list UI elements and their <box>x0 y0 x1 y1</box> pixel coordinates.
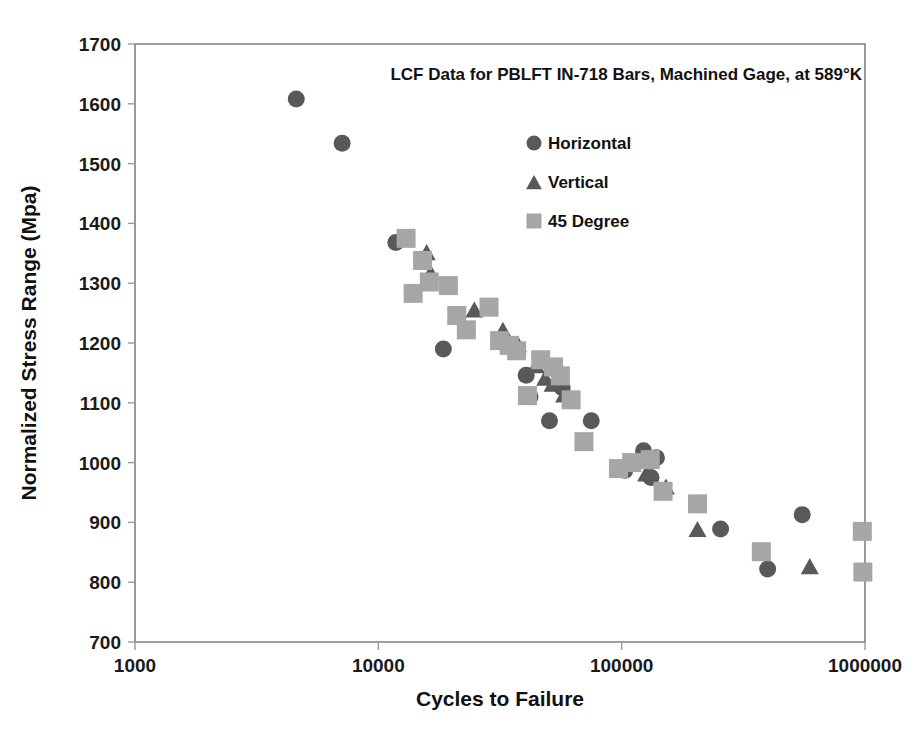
y-tick-label: 1200 <box>79 333 121 354</box>
y-axis-title: Normalized Stress Range (Mpa) <box>17 185 40 500</box>
data-point <box>583 412 600 429</box>
data-point <box>654 482 673 501</box>
data-point <box>794 506 811 523</box>
data-point <box>622 453 641 472</box>
x-tick-label: 1000000 <box>828 655 902 676</box>
legend-label: Vertical <box>548 173 609 192</box>
y-tick-label: 1100 <box>80 393 121 414</box>
legend-label: Horizontal <box>548 134 631 153</box>
data-point <box>641 450 660 469</box>
data-point <box>551 366 570 385</box>
data-point <box>413 251 432 270</box>
y-tick-label: 1700 <box>79 34 121 55</box>
data-point <box>853 522 872 541</box>
data-point <box>574 432 593 451</box>
y-tick-label: 700 <box>89 632 121 653</box>
x-tick-label: 10000 <box>352 655 405 676</box>
data-points-group <box>288 91 873 582</box>
y-tick-group: 7008009001000110012001300140015001600170… <box>79 34 135 653</box>
data-point <box>689 521 707 537</box>
data-point <box>688 494 707 513</box>
series-horizontal <box>288 91 811 578</box>
legend-marker-square-icon <box>527 214 542 229</box>
data-point <box>853 563 872 582</box>
plot-canvas: 1000100001000001000000 70080090010001100… <box>0 0 915 733</box>
data-point <box>480 298 499 317</box>
x-tick-group: 1000100001000001000000 <box>114 642 902 676</box>
data-point <box>457 320 476 339</box>
data-point <box>439 276 458 295</box>
data-point <box>541 412 558 429</box>
x-tick-label: 100000 <box>590 655 653 676</box>
chart-title: LCF Data for PBLFT IN-718 Bars, Machined… <box>390 65 862 84</box>
data-point <box>404 284 423 303</box>
y-tick-label: 900 <box>89 512 121 533</box>
data-point <box>562 390 581 409</box>
y-tick-label: 1600 <box>79 94 121 115</box>
data-point <box>759 561 776 578</box>
data-point <box>420 273 439 292</box>
lcf-scatter-chart: 1000100001000001000000 70080090010001100… <box>0 0 915 733</box>
legend-label: 45 Degree <box>548 212 629 231</box>
y-tick-label: 1000 <box>79 453 121 474</box>
data-point <box>397 229 416 248</box>
y-tick-label: 1500 <box>79 154 121 175</box>
data-point <box>507 341 526 360</box>
data-point <box>435 340 452 357</box>
data-point <box>712 520 729 537</box>
y-tick-label: 1400 <box>79 213 121 234</box>
y-tick-label: 800 <box>89 572 121 593</box>
data-point <box>752 542 771 561</box>
data-point <box>801 558 819 574</box>
legend-group: HorizontalVertical45 Degree <box>526 134 631 231</box>
legend-marker-circle-icon <box>527 136 542 151</box>
data-point <box>518 386 537 405</box>
series-vertical <box>418 244 819 574</box>
series-45-degree <box>397 229 873 582</box>
data-point <box>334 135 351 152</box>
data-point <box>288 91 305 108</box>
legend-marker-triangle-icon <box>526 175 542 189</box>
x-tick-label: 1000 <box>114 655 156 676</box>
x-axis-title: Cycles to Failure <box>416 687 584 710</box>
y-tick-label: 1300 <box>79 273 121 294</box>
